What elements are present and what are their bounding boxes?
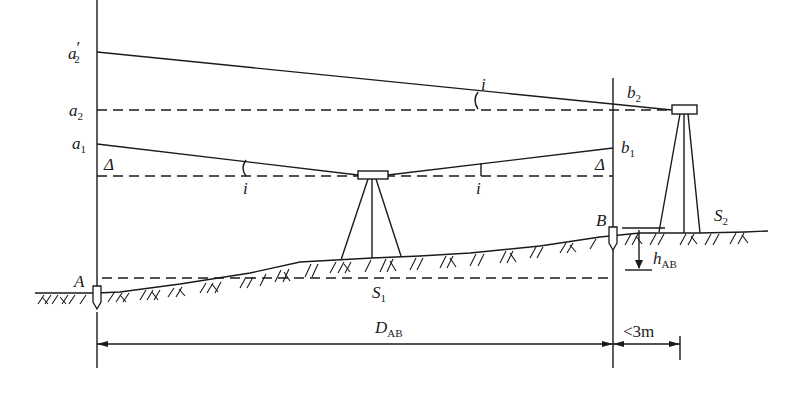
label-i-top: i: [481, 75, 486, 94]
sight-line-a1: [97, 144, 358, 175]
benchmark-B: [609, 227, 617, 250]
label-i-left: i: [243, 179, 248, 198]
arrow-right-icon: [669, 341, 680, 347]
leveling-diagram: a′2 a2 a1 b2 b1 Δ Δ i i i A B S1 S2 hAB …: [0, 0, 793, 394]
label-h-AB: hAB: [653, 249, 677, 270]
label-near-distance: <3m: [623, 322, 654, 341]
arrow-right-icon: [602, 341, 613, 347]
label-D-AB: DAB: [374, 318, 403, 339]
benchmark-A: [93, 286, 101, 309]
ground-hatching: [38, 233, 748, 304]
label-S1: S1: [372, 283, 386, 304]
label-delta-left: Δ: [103, 155, 114, 174]
label-a1: a1: [72, 134, 86, 155]
tripod-leg: [688, 114, 700, 233]
instrument-S2: [672, 105, 697, 114]
label-b2: b2: [627, 83, 641, 104]
arrow-left-icon: [613, 341, 624, 347]
angle-arc-left: [243, 160, 246, 176]
sight-line-b1: [388, 148, 613, 175]
label-a2-prime: a′2: [68, 38, 80, 65]
tripod-leg: [341, 179, 368, 260]
angle-arc-top: [475, 92, 478, 109]
label-a2: a2: [69, 101, 83, 122]
instrument-S1: [358, 171, 388, 179]
arrow-down-icon: [635, 260, 643, 269]
label-i-right: i: [476, 179, 481, 198]
label-S2: S2: [714, 206, 728, 227]
label-point-B: B: [596, 211, 607, 230]
label-point-A: A: [73, 272, 85, 291]
arrow-left-icon: [97, 341, 108, 347]
sight-line-a2-prime: [97, 52, 672, 110]
label-b1: b1: [621, 138, 635, 159]
tripod-leg: [376, 179, 401, 256]
tripod-leg: [659, 114, 680, 232]
label-delta-right: Δ: [594, 155, 605, 174]
